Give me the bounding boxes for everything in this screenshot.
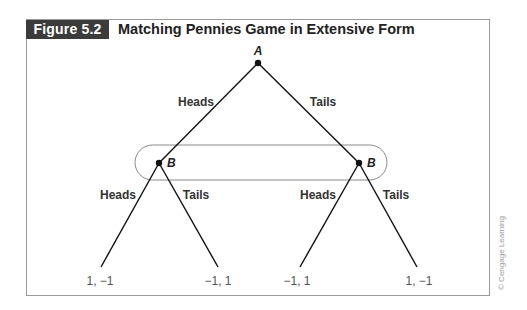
branch-label-a-heads: Heads <box>178 95 214 109</box>
payoff-heads-heads: 1, −1 <box>86 274 113 288</box>
node-b-right <box>356 160 362 166</box>
branch-label-bl-heads: Heads <box>100 188 136 202</box>
branch-bl-tails <box>159 163 218 267</box>
branch-label-br-heads: Heads <box>300 188 336 202</box>
node-a <box>255 60 261 66</box>
branch-br-tails <box>359 163 417 267</box>
node-b-left <box>156 160 162 166</box>
game-tree: A B B Heads Tails Heads Tails Heads Tail… <box>0 0 527 310</box>
payoff-tails-tails: 1, −1 <box>405 274 432 288</box>
node-b-left-label: B <box>167 156 176 170</box>
node-b-right-label: B <box>367 156 376 170</box>
node-a-label: A <box>253 44 263 58</box>
branch-label-bl-tails: Tails <box>183 188 210 202</box>
payoff-tails-heads: −1, 1 <box>283 274 310 288</box>
branch-a-tails <box>258 63 359 163</box>
branch-br-heads <box>300 163 359 267</box>
branch-bl-heads <box>101 163 159 267</box>
branch-a-heads <box>159 63 258 163</box>
payoff-heads-tails: −1, 1 <box>204 274 231 288</box>
branch-label-br-tails: Tails <box>383 188 410 202</box>
branch-label-a-tails: Tails <box>310 95 337 109</box>
